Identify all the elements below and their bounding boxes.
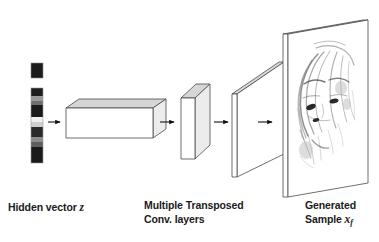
label-generated-sample-text: Sample bbox=[305, 213, 345, 225]
output-image-plane bbox=[283, 20, 368, 197]
block2-front-face bbox=[181, 98, 195, 159]
figure-canvas: Hidden vector z Multiple Transposed Conv… bbox=[0, 0, 379, 242]
feature-map-plane bbox=[232, 62, 284, 177]
hidden-vector-column bbox=[31, 88, 43, 163]
plane2-front-edge bbox=[283, 34, 288, 197]
hidden-vector-top-block bbox=[31, 63, 43, 78]
plane1-front-face bbox=[232, 94, 237, 177]
label-generated-sample-subscript: f bbox=[350, 218, 353, 227]
hidden-vector-graphic bbox=[31, 63, 43, 163]
label-transposed-conv-line1: Multiple Transposed bbox=[144, 198, 244, 212]
plane1-side-face bbox=[237, 62, 284, 177]
label-generated-sample-line2: Sample xf bbox=[305, 212, 356, 230]
block1-top-face bbox=[66, 99, 166, 108]
transposed-conv-block bbox=[181, 84, 210, 159]
label-transposed-conv-line2: Conv. layers bbox=[144, 212, 244, 226]
label-hidden-vector: Hidden vector z bbox=[8, 200, 84, 214]
dense-projection-block bbox=[66, 99, 166, 138]
label-hidden-vector-symbol: z bbox=[80, 201, 84, 213]
label-generated-sample: Generated Sample xf bbox=[305, 198, 356, 230]
label-generated-sample-line1: Generated bbox=[305, 198, 356, 212]
label-hidden-vector-text: Hidden vector bbox=[8, 201, 80, 213]
block1-front-face bbox=[66, 108, 153, 138]
label-transposed-conv: Multiple Transposed Conv. layers bbox=[144, 198, 244, 226]
